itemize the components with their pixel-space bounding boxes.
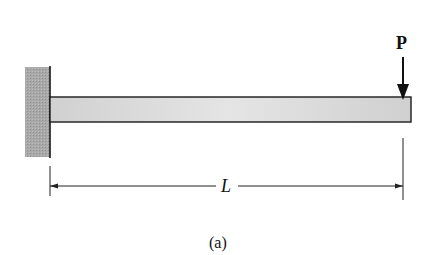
figure-caption: (a) [209,234,227,252]
cantilever-diagram [0,0,434,255]
wall-support [25,66,50,158]
load-label: P [396,33,407,54]
length-label: L [221,176,231,197]
beam [50,97,411,122]
load-arrow-icon [397,57,409,100]
